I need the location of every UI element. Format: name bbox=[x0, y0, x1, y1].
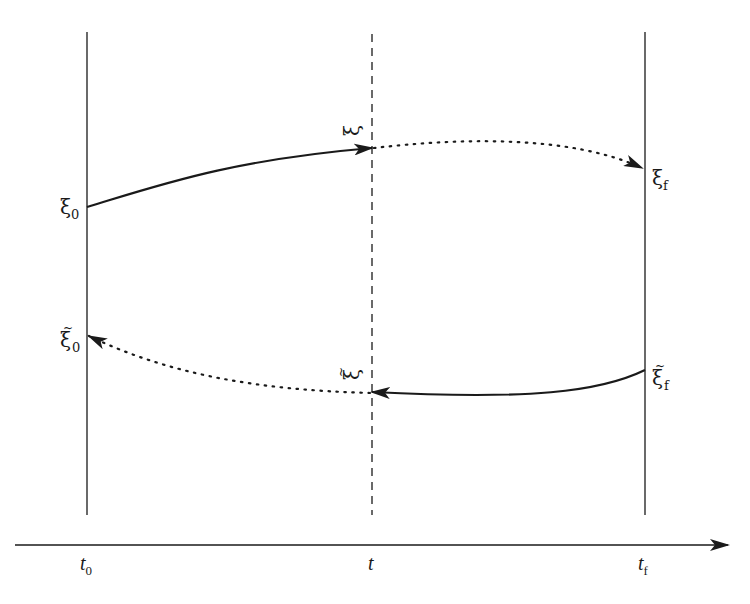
label-xi-f: ξf bbox=[652, 166, 669, 193]
label-xi-0: ξ0 bbox=[60, 195, 79, 222]
svg-text:0: 0 bbox=[72, 340, 80, 355]
svg-text:f: f bbox=[664, 378, 670, 393]
backward-solid-arrow bbox=[372, 370, 645, 395]
svg-text:~: ~ bbox=[334, 367, 348, 377]
forward-dotted-arrow bbox=[374, 141, 642, 168]
svg-text:ξ: ξ bbox=[340, 125, 364, 136]
label-xi-tilde-f: ξ ~ f bbox=[652, 359, 670, 393]
forward-solid-arrow bbox=[87, 148, 372, 207]
label-xi-mid: ξ bbox=[340, 125, 364, 136]
time-label-t0: t0 bbox=[80, 552, 92, 578]
time-evolution-diagram: ξ0 ξ ξf ξ ~ 0 ξ ~ ξ ~ f t0 t tf bbox=[0, 0, 750, 604]
label-xi-tilde-0: ξ ~ 0 bbox=[60, 321, 80, 355]
svg-text:~: ~ bbox=[63, 321, 73, 335]
backward-dotted-arrow bbox=[89, 336, 370, 393]
time-label-tf: tf bbox=[638, 552, 649, 578]
label-xi-tilde-mid: ξ ~ bbox=[334, 367, 364, 380]
time-label-t: t bbox=[368, 552, 374, 574]
svg-text:~: ~ bbox=[655, 359, 665, 373]
